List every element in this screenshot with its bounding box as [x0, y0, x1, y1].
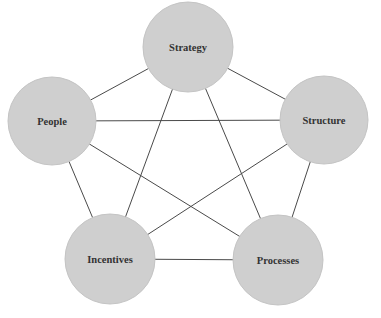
node-people-label: People — [37, 116, 67, 127]
node-strategy-label: Strategy — [169, 42, 208, 53]
node-incentives: Incentives — [65, 214, 155, 304]
diagram-canvas: Strategy People Structure Incentives Pro… — [0, 0, 381, 318]
node-processes-label: Processes — [257, 255, 299, 266]
node-structure: Structure — [280, 76, 368, 164]
node-processes: Processes — [233, 215, 323, 305]
star-model-diagram: Strategy People Structure Incentives Pro… — [0, 0, 381, 318]
node-people: People — [8, 77, 96, 165]
node-structure-label: Structure — [303, 115, 346, 126]
node-strategy: Strategy — [143, 2, 233, 92]
node-incentives-label: Incentives — [87, 254, 133, 265]
